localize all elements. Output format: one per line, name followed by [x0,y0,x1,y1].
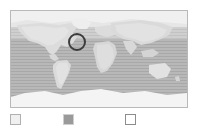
world-map-figure [10,10,188,108]
legend-swatch-light [10,114,21,125]
legend-item-1[interactable] [63,112,77,126]
screenshot-root [0,0,199,129]
legend-swatch-gray [63,114,74,125]
legend-item-2[interactable] [125,112,139,126]
map-legend [10,112,188,126]
world-map-canvas [11,11,187,107]
legend-swatch-white [125,114,136,125]
legend-item-0[interactable] [10,112,24,126]
